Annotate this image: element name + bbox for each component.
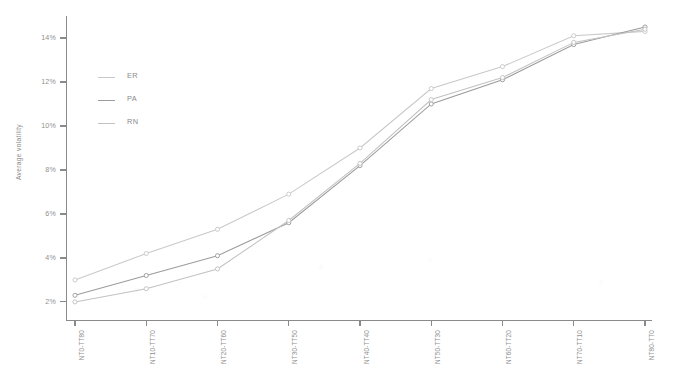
data-point-er-6: [500, 65, 504, 69]
data-point-rn-0: [73, 300, 77, 304]
plot-area: [0, 0, 683, 371]
data-point-rn-5: [429, 98, 433, 102]
data-point-pa-5: [429, 102, 433, 106]
data-point-er-7: [572, 34, 576, 38]
data-point-pa-1: [144, 273, 148, 277]
series-er: [73, 29, 647, 282]
series-rn: [73, 27, 647, 304]
data-point-rn-6: [500, 76, 504, 80]
data-point-er-3: [287, 192, 291, 196]
legend-line-swatch: [98, 77, 115, 78]
legend-line-swatch: [98, 100, 115, 101]
data-point-er-5: [429, 87, 433, 91]
data-point-rn-7: [572, 40, 576, 44]
data-point-rn-4: [358, 161, 362, 165]
data-point-er-2: [215, 227, 219, 231]
legend-item-label: RN: [127, 117, 138, 126]
data-point-er-0: [73, 278, 77, 282]
data-point-pa-0: [73, 293, 77, 297]
chart-canvas: Average volatility 2%4%6%8%10%12%14% NT0…: [0, 0, 683, 371]
data-point-rn-2: [215, 267, 219, 271]
legend-item-label: PA: [127, 94, 137, 103]
data-point-rn-8: [643, 27, 647, 31]
data-point-er-4: [358, 146, 362, 150]
data-point-rn-1: [144, 287, 148, 291]
legend-item-label: ER: [127, 71, 138, 80]
data-point-er-1: [144, 251, 148, 255]
series-line-er: [75, 31, 645, 280]
legend-line-swatch: [98, 123, 115, 124]
data-point-pa-2: [215, 254, 219, 258]
data-point-rn-3: [287, 218, 291, 222]
